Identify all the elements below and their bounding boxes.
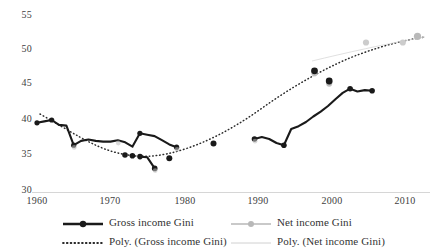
x-tick-label: 1970 <box>90 196 130 206</box>
y-tick-label: 55 <box>8 10 32 20</box>
data-point-gross <box>122 152 128 158</box>
y-tick-label: 50 <box>8 44 32 54</box>
chart-legend: Gross income Gini Net income Gini <box>0 212 435 251</box>
x-tick-label: 1990 <box>238 196 278 206</box>
series-gross-income-gini <box>34 67 375 171</box>
legend-key-line-marker-gray-icon <box>230 216 272 228</box>
data-point-net-shadow <box>253 139 258 144</box>
data-point-net <box>400 39 406 45</box>
data-point-net-shadow <box>72 145 77 150</box>
legend-row-series: Gross income Gini Net income Gini <box>0 213 435 231</box>
legend-row-trends: Poly. (Gross income Gini) Poly. (Net inc… <box>0 232 435 250</box>
legend-item-gross-income-gini[interactable]: Gross income Gini <box>0 213 220 231</box>
data-point-gross <box>326 78 333 85</box>
x-tick-label: 1960 <box>17 196 57 206</box>
y-axis-tick-labels: 55 50 45 40 35 30 <box>6 0 32 200</box>
series-net-shadow-markers <box>72 139 258 173</box>
x-axis-tick-labels: 1960 1970 1980 1990 2000 2010 <box>0 196 435 210</box>
legend-key-line-marker-dark-icon <box>62 216 104 228</box>
x-tick-label: 2010 <box>385 196 425 206</box>
legend-key-dotted-dark-icon <box>62 235 104 247</box>
data-point-net-shadow <box>116 141 121 146</box>
legend-label: Net income Gini <box>277 216 352 228</box>
gini-line-chart: 55 50 45 40 35 30 1960 1970 1980 1990 20… <box>0 0 435 251</box>
gross-line-segment-mid <box>140 157 155 169</box>
data-point-gross <box>49 117 54 122</box>
data-point-net <box>414 33 421 40</box>
data-point-gross <box>211 141 217 147</box>
data-point-gross <box>369 88 375 94</box>
y-tick-label: 30 <box>8 185 32 195</box>
data-point-gross <box>137 154 143 160</box>
y-tick-label: 40 <box>8 114 32 124</box>
data-point-net-shadow <box>153 168 158 173</box>
data-point-gross <box>34 120 39 125</box>
y-tick-label: 35 <box>8 149 32 159</box>
data-point-gross <box>137 131 142 136</box>
x-tick-label: 1980 <box>165 196 205 206</box>
data-point-gross <box>347 86 353 92</box>
legend-label: Poly. (Gross income Gini) <box>109 235 227 247</box>
data-point-gross <box>166 155 172 161</box>
trend-gross-income-gini <box>40 37 425 156</box>
legend-item-net-income-gini[interactable]: Net income Gini <box>220 213 435 231</box>
legend-label: Gross income Gini <box>109 216 194 228</box>
legend-item-poly-net-income-gini[interactable]: Poly. (Net income Gini) <box>220 232 435 250</box>
data-point-gross <box>281 142 287 148</box>
data-point-gross <box>311 67 318 74</box>
y-tick-label: 45 <box>8 78 32 88</box>
x-tick-label: 2000 <box>312 196 352 206</box>
legend-key-solid-gray-icon <box>230 235 272 247</box>
trend-net-income-gini <box>312 37 425 61</box>
data-point-net-shadow <box>175 147 180 152</box>
data-point-gross <box>130 153 136 159</box>
gross-line-segment-early <box>37 120 177 147</box>
legend-label: Poly. (Net income Gini) <box>277 235 385 247</box>
gross-line-segment-late <box>255 89 373 146</box>
data-point-net <box>363 39 369 45</box>
legend-item-poly-gross-income-gini[interactable]: Poly. (Gross income Gini) <box>0 232 220 250</box>
